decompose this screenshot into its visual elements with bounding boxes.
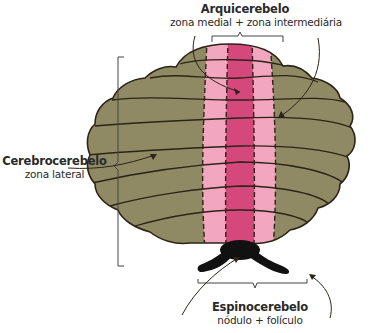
- top-bracket: [212, 32, 283, 42]
- arquicerebelo-label: Arquicerebelo zona medial + zona interme…: [170, 2, 320, 28]
- espinocerebelo-subtitle: nódulo + folículo: [205, 314, 315, 326]
- cerebrocerebelo-subtitle: zona lateral: [2, 168, 107, 180]
- cerebrocerebelo-title: Cerebrocerebelo: [2, 154, 107, 168]
- espinocerebelo-title: Espinocerebelo: [205, 300, 315, 314]
- arquicerebelo-title: Arquicerebelo: [170, 2, 320, 16]
- arquicerebelo-subtitle: zona medial + zona intermediária: [170, 16, 320, 28]
- cerebrocerebelo-label: Cerebrocerebelo zona lateral: [2, 154, 107, 180]
- flocculonodular-lobe: [198, 240, 290, 274]
- medial-zone: [226, 40, 255, 250]
- espinocerebelo-label: Espinocerebelo nódulo + folículo: [205, 300, 315, 326]
- cerebellum-diagram: Arquicerebelo zona medial + zona interme…: [0, 0, 380, 333]
- bottom-bracket: [198, 279, 307, 288]
